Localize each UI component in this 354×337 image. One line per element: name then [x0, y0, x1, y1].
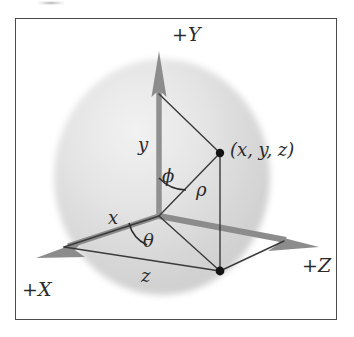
figure-root: +Y +X +Z y x z ϕ θ ρ (x, y, z): [0, 0, 354, 337]
angle-label-phi: ϕ: [162, 167, 174, 185]
point-xyz: [216, 149, 224, 157]
figure-frame: +Y +X +Z y x z ϕ θ ρ (x, y, z): [15, 18, 337, 320]
radius-label-rho: ρ: [196, 181, 207, 199]
angle-label-theta: θ: [143, 232, 154, 250]
spherical-coordinate-diagram: [16, 19, 338, 321]
scan-artifact: [38, 1, 64, 5]
axis-label-x: +X: [22, 280, 51, 299]
point-coordinate-label: (x, y, z): [230, 141, 294, 159]
variable-label-y: y: [138, 136, 148, 154]
variable-label-z: z: [141, 267, 150, 285]
axis-label-z: +Z: [302, 256, 331, 275]
point-projection: [216, 267, 225, 276]
axis-label-y: +Y: [172, 25, 200, 44]
variable-label-x: x: [108, 209, 118, 227]
